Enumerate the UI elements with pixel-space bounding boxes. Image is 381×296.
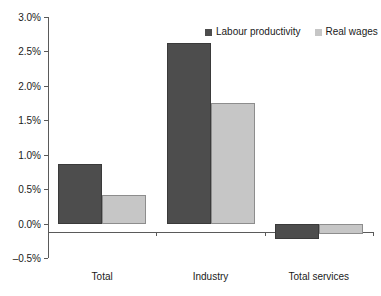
x-axis-category-label: Industry [193, 271, 229, 282]
bar-total-services-real-wages [319, 224, 363, 234]
y-axis-line [48, 17, 49, 258]
y-axis-tick [44, 86, 48, 87]
bar-industry-real-wages [211, 103, 255, 224]
y-axis-tick [44, 120, 48, 121]
x-axis-tick [265, 232, 266, 236]
y-axis-tick [44, 51, 48, 52]
bar-chart: Labour productivity Real wages 3.0%2.5%2… [0, 0, 381, 296]
y-axis-tick-label: 3.0% [18, 12, 41, 23]
bar-total-services-labour-productivity [275, 224, 319, 240]
y-axis-tick-label: –0.5% [13, 253, 41, 264]
y-axis-tick-label: 1.5% [18, 115, 41, 126]
y-axis-tick-label: 2.5% [18, 46, 41, 57]
y-axis-tick-label: 1.0% [18, 149, 41, 160]
x-axis-category-label: Total services [289, 271, 350, 282]
y-axis-tick [44, 258, 48, 259]
bar-industry-labour-productivity [167, 43, 211, 223]
y-axis-tick-label: 0.0% [18, 218, 41, 229]
y-axis-tick [44, 224, 48, 225]
x-axis-category-label: Total [92, 271, 113, 282]
x-axis-tick [373, 232, 374, 236]
bar-total-real-wages [102, 195, 146, 223]
bar-total-labour-productivity [58, 164, 102, 224]
y-axis-tick [44, 189, 48, 190]
x-axis-tick [156, 232, 157, 236]
y-axis-tick-label: 0.5% [18, 184, 41, 195]
plot-area: 3.0%2.5%2.0%1.5%1.0%0.5%0.0%–0.5% [48, 17, 373, 258]
y-axis-tick-label: 2.0% [18, 80, 41, 91]
y-axis-tick [44, 17, 48, 18]
y-axis-tick [44, 155, 48, 156]
